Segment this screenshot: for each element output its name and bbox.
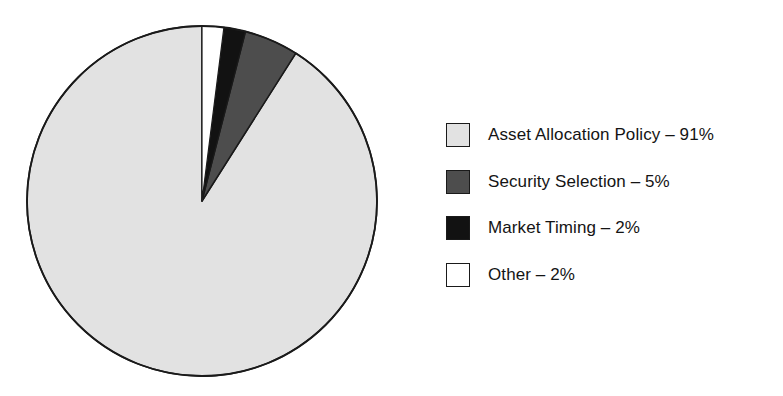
pie-chart (24, 22, 382, 382)
legend-swatch-asset-allocation-policy (446, 123, 470, 147)
legend-item-market-timing: Market Timing – 2% (446, 205, 776, 252)
legend-item-security-selection: Security Selection – 5% (446, 159, 776, 206)
chart-legend: Asset Allocation Policy – 91% Security S… (446, 112, 776, 298)
legend-label-security-selection: Security Selection – 5% (488, 172, 670, 192)
legend-item-other: Other – 2% (446, 252, 776, 299)
legend-item-asset-allocation-policy: Asset Allocation Policy – 91% (446, 112, 776, 159)
legend-label-asset-allocation-policy: Asset Allocation Policy – 91% (488, 125, 714, 145)
pie-chart-figure: Asset Allocation Policy – 91% Security S… (0, 0, 783, 396)
legend-label-other: Other – 2% (488, 265, 575, 285)
legend-swatch-market-timing (446, 216, 470, 240)
legend-label-market-timing: Market Timing – 2% (488, 218, 640, 238)
legend-swatch-security-selection (446, 170, 470, 194)
legend-swatch-other (446, 263, 470, 287)
pie-chart-svg (24, 22, 382, 382)
